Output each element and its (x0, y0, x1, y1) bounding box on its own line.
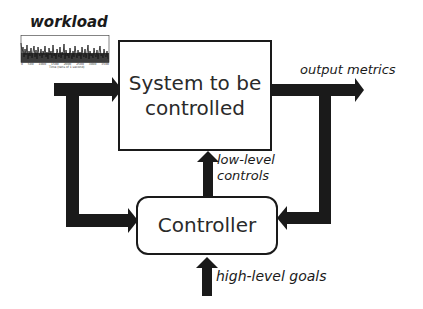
controller-box: Controller (136, 196, 278, 255)
workload-x-label: Time (tens of 1 second) (49, 65, 84, 69)
system-label-line2: controlled (129, 96, 261, 121)
controller-label: Controller (158, 213, 256, 238)
low-level-controls-line2: controls (217, 168, 275, 184)
x-tick: 3500 (101, 62, 109, 66)
feedback-to-controller-arrow (277, 90, 331, 230)
workload-chart: 0 500 1000 1500 2000 2500 3000 3500 Time… (17, 35, 110, 67)
high-level-goals-arrow (196, 257, 218, 296)
workload-to-system-arrow (54, 77, 122, 102)
output-metrics-arrow (271, 78, 364, 102)
output-metrics-label: output metrics (300, 62, 396, 77)
system-label: System to be controlled (129, 71, 261, 121)
x-tick: 0 (21, 62, 23, 66)
low-level-controls-arrow (197, 151, 219, 197)
low-level-controls-line1: low-level (217, 152, 275, 168)
high-level-goals-label: high-level goals (216, 268, 327, 284)
x-tick: 3000 (89, 62, 97, 66)
x-tick: 1000 (39, 62, 47, 66)
low-level-controls-label: low-level controls (217, 152, 275, 184)
system-box: System to be controlled (118, 40, 272, 151)
system-label-line1: System to be (129, 71, 261, 96)
workload-label: workload (30, 13, 108, 31)
x-tick: 500 (28, 62, 34, 66)
